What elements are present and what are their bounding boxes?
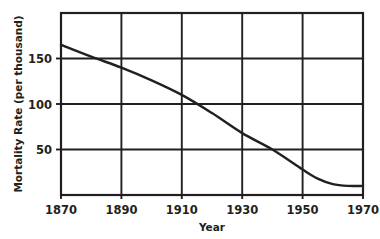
y-axis-title: Mortality Rate (per thousand) (12, 15, 24, 192)
x-tick-label-1950: 1950 (287, 203, 319, 217)
y-tick-label-100: 100 (28, 98, 52, 112)
y-tick-label-50: 50 (36, 143, 52, 157)
x-tick-label-1930: 1930 (226, 203, 258, 217)
y-tick-labels-group: 50100150 (28, 52, 52, 157)
x-tick-label-1870: 1870 (45, 203, 77, 217)
mortality-rate-line-chart: 50100150 187018901910193019501970 Mortal… (0, 0, 380, 239)
x-tick-labels-group: 187018901910193019501970 (45, 203, 379, 217)
x-tick-label-1970: 1970 (347, 203, 379, 217)
x-tick-label-1910: 1910 (166, 203, 198, 217)
x-axis-title: Year (198, 221, 226, 233)
x-tick-label-1890: 1890 (105, 203, 137, 217)
chart-canvas: 50100150 187018901910193019501970 Mortal… (0, 0, 380, 239)
y-tick-label-150: 150 (28, 52, 52, 66)
